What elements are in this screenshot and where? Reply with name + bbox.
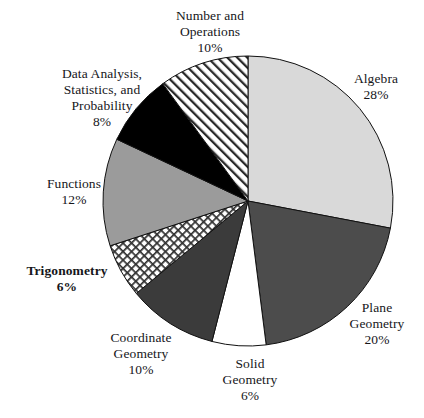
label-line-1: Data Analysis, <box>62 66 142 81</box>
slice-label-trigonometry: Trigonometry 6% <box>8 263 126 295</box>
label-line-1: Solid <box>235 356 264 371</box>
label-line-3: Probability <box>71 98 132 113</box>
slice-label-data-analysis: Data Analysis, Statistics, and Probabili… <box>43 66 161 130</box>
label-percent: 12% <box>21 192 127 208</box>
slice-label-number-and-operations: Number and Operations 10% <box>141 8 279 56</box>
label-line-1: Coordinate <box>111 330 172 345</box>
label-line-1: Functions <box>47 176 101 191</box>
slice-label-coordinate-geometry: Coordinate Geometry 10% <box>86 330 196 378</box>
slice-label-solid-geometry: Solid Geometry 6% <box>203 356 297 404</box>
pie-chart: Number and Operations 10% Algebra 28% Pl… <box>0 0 424 418</box>
label-line-1: Algebra <box>354 71 398 86</box>
label-line-2: Statistics, and <box>64 82 141 97</box>
label-percent: 20% <box>332 332 422 348</box>
slice-label-functions: Functions 12% <box>21 176 127 208</box>
label-percent: 10% <box>141 40 279 56</box>
label-line-1: Trigonometry <box>26 263 107 278</box>
slice-label-plane-geometry: Plane Geometry 20% <box>332 300 422 348</box>
label-line-2: Geometry <box>350 316 405 331</box>
label-percent: 8% <box>43 114 161 130</box>
label-line-2: Geometry <box>114 346 169 361</box>
label-percent: 28% <box>330 87 422 103</box>
slice-label-algebra: Algebra 28% <box>330 71 422 103</box>
label-percent: 10% <box>86 362 196 378</box>
label-line-2: Geometry <box>223 372 278 387</box>
label-percent: 6% <box>8 279 126 295</box>
label-line-1: Plane <box>362 300 393 315</box>
label-percent: 6% <box>203 388 297 404</box>
label-line-2: Operations <box>180 24 240 39</box>
label-line-1: Number and <box>176 8 244 23</box>
